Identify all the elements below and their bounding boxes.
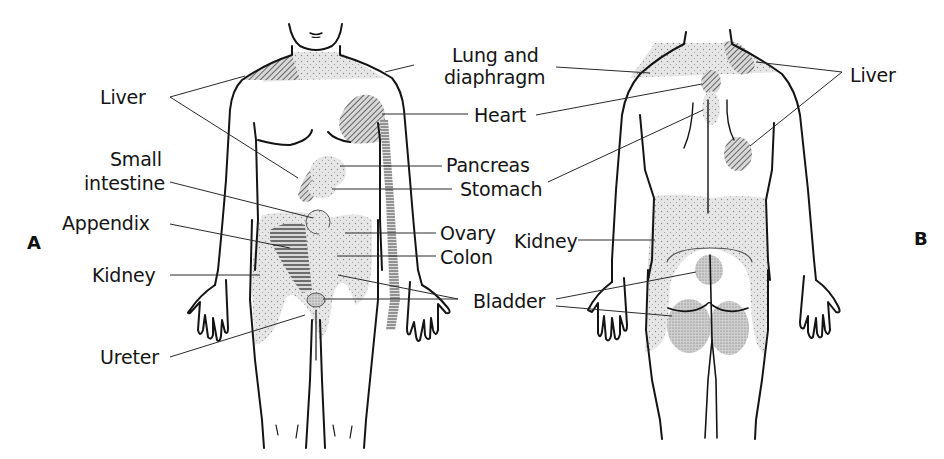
label-front-kidney: Kidney: [92, 264, 156, 286]
label-lung-line2: diaphragm: [444, 66, 545, 88]
back-body: [588, 30, 840, 439]
label-back-liver: Liver: [850, 64, 896, 86]
back-liver-area: [724, 137, 752, 171]
front-colon-area: [311, 246, 339, 260]
label-small-intestine-line2: intestine: [84, 172, 165, 194]
front-liver-shoulder-area: [242, 55, 300, 80]
back-pancreas-area: [702, 91, 720, 125]
front-ovary-area: [319, 227, 347, 241]
label-small-intestine-line1: Small: [110, 148, 162, 170]
label-appendix: Appendix: [62, 212, 150, 234]
back-heart-area: [701, 70, 721, 94]
label-heart: Heart: [474, 104, 526, 126]
label-lung-line1: Lung and: [452, 44, 539, 66]
panel-label-a: A: [27, 232, 41, 253]
back-bladder-upper-area: [695, 255, 723, 285]
panel-label-b: B: [914, 228, 928, 249]
label-front-liver: Liver: [100, 86, 146, 108]
label-stomach: Stomach: [460, 178, 542, 200]
front-heart-area: [339, 95, 385, 144]
front-bladder-area: [307, 293, 325, 307]
label-pancreas: Pancreas: [446, 154, 530, 176]
label-back-kidney: Kidney: [514, 230, 578, 252]
front-stomach-area: [308, 178, 336, 198]
back-bladder-left-area: [667, 299, 711, 353]
label-ureter: Ureter: [100, 346, 159, 368]
label-ovary: Ovary: [440, 222, 496, 244]
label-colon: Colon: [440, 246, 493, 268]
label-bladder: Bladder: [473, 290, 545, 312]
front-body: [188, 24, 450, 448]
